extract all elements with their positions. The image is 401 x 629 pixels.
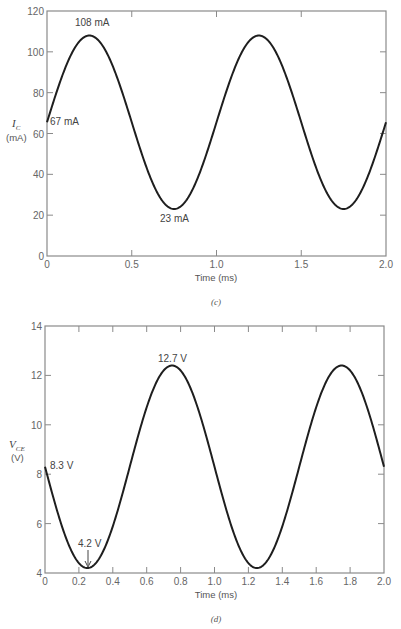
ic-xtick-label: 2.0 — [379, 259, 393, 270]
ic-plot-frame — [47, 11, 386, 256]
ic-annot-min: 23 mA — [160, 213, 189, 224]
ic-ticks: 00.51.01.52.0020406080100120 — [27, 6, 393, 270]
vce-xtick-label: 1.4 — [275, 576, 289, 587]
vce-xtick-label: 1.6 — [309, 576, 323, 587]
vce-min-arrow-icon — [85, 550, 91, 567]
ic-ylabel-unit: (mA) — [6, 132, 27, 143]
ic-curve — [47, 36, 386, 210]
vce-xtick-label: 1.0 — [208, 576, 222, 587]
ic-xtick-label: 0.5 — [125, 259, 139, 270]
ic-ytick-label: 40 — [33, 169, 45, 180]
vce-caption: (d) — [211, 614, 222, 624]
vce-xtick-label: 0.6 — [140, 576, 154, 587]
vce-ylabel-main: VCE — [9, 438, 25, 453]
vce-ytick-label: 4 — [36, 568, 42, 579]
vce-annot-peak: 12.7 V — [158, 353, 187, 364]
ic-annot-peak: 108 mA — [75, 17, 110, 28]
ic-caption: (c) — [211, 297, 221, 307]
vce-xtick-label: 2.0 — [377, 576, 391, 587]
ic-chart: 00.51.01.52.0020406080100120 108 mA 67 m… — [6, 6, 393, 307]
vce-xtick-label: 0 — [42, 576, 48, 587]
vce-ylabel-unit: (V) — [11, 452, 24, 463]
vce-chart: 00.20.40.60.81.01.21.41.61.82.0468101214… — [9, 321, 391, 624]
ic-ytick-label: 120 — [27, 6, 44, 17]
vce-xtick-label: 0.8 — [174, 576, 188, 587]
ic-annot-start: 67 mA — [50, 116, 79, 127]
vce-xlabel: Time (ms) — [195, 589, 237, 600]
vce-annot-start: 8.3 V — [50, 460, 74, 471]
vce-ytick-label: 12 — [31, 370, 43, 381]
vce-plot-frame — [45, 326, 384, 573]
vce-ytick-label: 10 — [31, 420, 43, 431]
vce-xtick-label: 1.8 — [343, 576, 357, 587]
vce-xtick-label: 0.4 — [106, 576, 120, 587]
vce-ytick-label: 8 — [36, 469, 42, 480]
ic-xtick-label: 0 — [44, 259, 50, 270]
ic-ytick-label: 20 — [33, 210, 45, 221]
vce-ytick-label: 6 — [36, 519, 42, 530]
vce-xtick-label: 0.2 — [72, 576, 86, 587]
ic-ytick-label: 80 — [33, 88, 45, 99]
ic-xlabel: Time (ms) — [195, 272, 237, 283]
ic-ytick-label: 0 — [38, 251, 44, 262]
vce-ytick-label: 14 — [31, 321, 43, 332]
ic-xtick-label: 1.0 — [210, 259, 224, 270]
chart-figure: 00.51.01.52.0020406080100120 108 mA 67 m… — [0, 0, 401, 629]
ic-ytick-label: 60 — [33, 129, 45, 140]
ic-ylabel-main: IC — [11, 117, 21, 132]
ic-xtick-label: 1.5 — [294, 259, 308, 270]
ic-ytick-label: 100 — [27, 47, 44, 58]
vce-xtick-label: 1.2 — [241, 576, 255, 587]
vce-annot-min: 4.2 V — [78, 538, 102, 549]
